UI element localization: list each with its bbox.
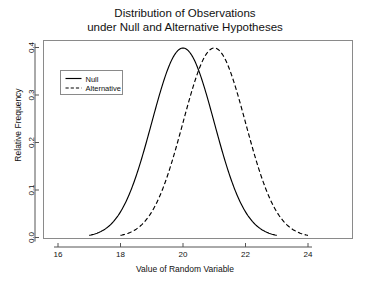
y-axis-tick-label: 0.2: [27, 136, 36, 148]
x-axis-tick-label: 20: [179, 250, 188, 259]
y-axis-label: Relative Frequency: [13, 70, 23, 180]
x-axis-label: Value of Random Variable: [0, 264, 370, 274]
x-axis-tick-label: 18: [116, 250, 125, 259]
plot-area: 16182022240.00.10.20.30.4 NullAlternativ…: [0, 0, 370, 285]
chart-figure: Distribution of Observations under Null …: [0, 0, 370, 285]
legend-label-alternative: Alternative: [86, 84, 121, 93]
series-line-alternative: [121, 48, 309, 235]
legend-box: NullAlternative: [61, 71, 123, 95]
y-axis-tick-label: 0.0: [27, 231, 36, 243]
x-axis-tick-label: 22: [241, 250, 250, 259]
x-axis-tick-label: 24: [304, 250, 313, 259]
y-axis-tick-label: 0.4: [27, 41, 36, 53]
legend-label-null: Null: [86, 75, 99, 84]
y-axis-tick-label: 0.3: [27, 89, 36, 101]
y-axis-tick-label: 0.1: [27, 184, 36, 196]
x-axis-tick-label: 16: [54, 250, 63, 259]
